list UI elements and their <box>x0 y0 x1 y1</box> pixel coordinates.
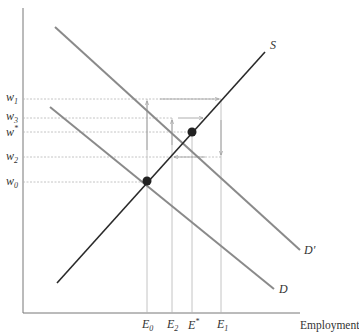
y-tick-w0: w0 <box>6 175 18 190</box>
cobweb-arrows <box>147 99 221 157</box>
y-tick-w1: w1 <box>6 91 18 106</box>
demand-prime-label: D′ <box>304 244 315 256</box>
wage-guides <box>23 99 221 182</box>
x-axis-title: Employment <box>300 320 359 332</box>
new-equilibrium-point <box>188 128 197 137</box>
supply-curve-s <box>57 52 265 283</box>
x-tick-estar: E* <box>188 318 199 331</box>
x-tick-e2: E2 <box>167 318 178 333</box>
y-tick-w2: w2 <box>6 150 18 165</box>
y-tick-wstar: w* <box>6 125 18 138</box>
supply-label: S <box>270 39 276 51</box>
demand-curve-d <box>50 107 274 289</box>
employment-guides <box>147 99 221 313</box>
demand-label: D <box>279 283 288 295</box>
x-tick-e0: E0 <box>142 318 153 333</box>
x-tick-e1: E1 <box>217 318 228 333</box>
initial-equilibrium-point <box>143 177 152 186</box>
demand-curve-d-prime <box>55 27 300 250</box>
